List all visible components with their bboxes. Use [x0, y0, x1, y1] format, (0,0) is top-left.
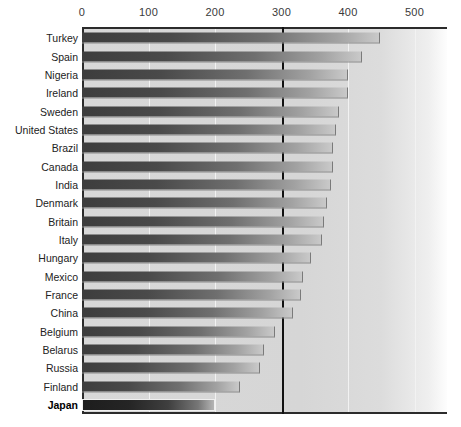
category-label-india: India	[55, 179, 78, 191]
category-label-italy: Italy	[59, 234, 78, 246]
category-label-belarus: Belarus	[42, 344, 78, 356]
bar-row: India	[0, 176, 461, 194]
bar-row: Japan	[0, 396, 461, 414]
category-label-nigeria: Nigeria	[45, 69, 78, 81]
bar-russia	[82, 363, 260, 374]
bar-row: Finland	[0, 378, 461, 396]
bar-row: China	[0, 304, 461, 322]
bar-row: Italy	[0, 231, 461, 249]
bar-denmark	[82, 198, 327, 209]
bar-ireland	[82, 88, 348, 99]
bar-britain	[82, 216, 324, 227]
bar-row: Nigeria	[0, 66, 461, 84]
bar-row: France	[0, 286, 461, 304]
bar-brazil	[82, 143, 333, 154]
bar-italy	[82, 235, 322, 246]
category-label-france: France	[45, 289, 78, 301]
bar-chart: 0100200300400500 TurkeySpainNigeriaIrela…	[0, 0, 461, 427]
bar-turkey	[82, 33, 380, 44]
category-label-japan: Japan	[48, 399, 78, 411]
bar-row: Hungary	[0, 249, 461, 267]
bar-row: Belgium	[0, 323, 461, 341]
bar-row: United States	[0, 121, 461, 139]
bar-india	[82, 179, 331, 190]
bar-row: Spain	[0, 47, 461, 65]
bar-finland	[82, 381, 240, 392]
bar-canada	[82, 161, 333, 172]
category-label-britain: Britain	[48, 216, 78, 228]
bar-france	[82, 290, 301, 301]
bar-row: Belarus	[0, 341, 461, 359]
category-label-belgium: Belgium	[40, 326, 78, 338]
bar-hungary	[82, 253, 311, 264]
bar-mexico	[82, 271, 303, 282]
category-label-finland: Finland	[44, 381, 78, 393]
category-label-mexico: Mexico	[45, 271, 78, 283]
bar-row: Mexico	[0, 268, 461, 286]
bar-rows: TurkeySpainNigeriaIrelandSwedenUnited St…	[0, 0, 461, 427]
category-label-sweden: Sweden	[40, 106, 78, 118]
bar-row: Ireland	[0, 84, 461, 102]
bar-sweden	[82, 106, 339, 117]
bar-row: Turkey	[0, 29, 461, 47]
bar-spain	[82, 51, 362, 62]
category-label-russia: Russia	[46, 362, 78, 374]
category-label-denmark: Denmark	[35, 197, 78, 209]
bar-china	[82, 308, 293, 319]
bar-row: Denmark	[0, 194, 461, 212]
bar-row: Brazil	[0, 139, 461, 157]
category-label-canada: Canada	[41, 161, 78, 173]
bar-row: Sweden	[0, 102, 461, 120]
bar-japan	[82, 399, 215, 411]
category-label-spain: Spain	[51, 51, 78, 63]
bar-belgium	[82, 326, 275, 337]
category-label-china: China	[51, 307, 78, 319]
bar-belarus	[82, 345, 264, 356]
bar-row: Britain	[0, 213, 461, 231]
bar-united-states	[82, 124, 336, 135]
category-label-brazil: Brazil	[52, 142, 78, 154]
category-label-united-states: United States	[15, 124, 78, 136]
bar-nigeria	[82, 69, 348, 80]
bar-row: Canada	[0, 157, 461, 175]
category-label-turkey: Turkey	[46, 32, 78, 44]
category-label-ireland: Ireland	[46, 87, 78, 99]
category-label-hungary: Hungary	[38, 252, 78, 264]
bar-row: Russia	[0, 359, 461, 377]
